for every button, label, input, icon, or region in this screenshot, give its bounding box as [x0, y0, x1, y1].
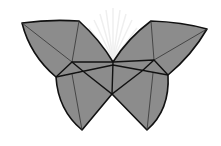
butterfly-diagram: Origami butterfly — [0, 0, 221, 146]
